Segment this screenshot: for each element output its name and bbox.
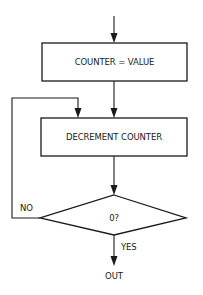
out-label: OUT <box>105 271 124 281</box>
yes-label: YES <box>120 242 137 252</box>
arrowhead-icon <box>111 33 118 43</box>
no-label: NO <box>20 203 33 213</box>
connector-init-to-decrement <box>111 81 118 118</box>
connector-decrement-to-test <box>111 156 118 195</box>
decision-diamond: 0? <box>40 195 186 235</box>
process-box-init: COUNTER = VALUE <box>42 43 187 81</box>
entry-arrow <box>111 16 118 43</box>
init-label: COUNTER = VALUE <box>75 57 155 67</box>
loop-back-connector <box>12 98 82 218</box>
arrowhead-icon <box>111 256 118 266</box>
arrowhead-icon <box>75 108 82 118</box>
arrowhead-icon <box>111 108 118 118</box>
decrement-label: DECREMENT COUNTER <box>66 132 162 142</box>
arrowhead-icon <box>111 185 118 195</box>
yes-connector <box>111 235 118 266</box>
test-label: 0? <box>109 213 119 223</box>
process-box-decrement: DECREMENT COUNTER <box>41 118 187 156</box>
flowchart-canvas: COUNTER = VALUE DECREMENT COUNTER 0? NO … <box>0 0 203 295</box>
